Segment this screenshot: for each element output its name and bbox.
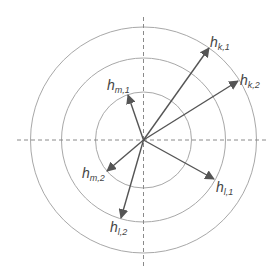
vector-label-hk1: hk,1 [210,34,230,52]
vector-labels: hk,1hk,2hm,1hm,2hl,1hl,2 [82,34,260,237]
vector-hm2-arrow [107,140,144,171]
vector-label-hl2: hl,2 [110,219,127,237]
vector-label-hm1: hm,1 [107,77,130,95]
vector-hk1-arrow [144,48,210,140]
vector-label-hl1: hl,1 [216,179,233,197]
vector-label-hm2: hm,2 [82,165,105,183]
vector-hm1-arrow [128,95,144,140]
vector-label-hk2: hk,2 [240,72,260,90]
vector-hl2-arrow [121,140,144,218]
polar-vector-diagram: hk,1hk,2hm,1hm,2hl,1hl,2 [0,0,279,273]
